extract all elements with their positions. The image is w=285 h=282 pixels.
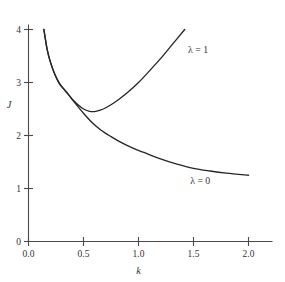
series-label-lambda-1: λ = 1 (188, 44, 208, 55)
y-axis-title: J (7, 99, 13, 110)
series-curve-lambda-0 (44, 30, 249, 176)
y-tick-label-1: 1 (16, 184, 21, 194)
y-tick-labels: 4 3 2 1 0 (16, 25, 21, 247)
y-tick-label-0: 0 (16, 237, 21, 247)
series-curve-lambda-1 (44, 30, 185, 112)
y-tick-label-3: 3 (16, 78, 21, 88)
x-tick-label-0p5: 0.5 (78, 249, 90, 259)
chart-figure: 4 3 2 1 0 0.0 0.5 1.0 1.5 2.0 J k λ = 1 … (0, 0, 285, 282)
x-axis-title: k (136, 265, 141, 276)
data-curves (44, 30, 249, 176)
x-tick-label-1p0: 1.0 (133, 249, 145, 259)
series-label-lambda-0: λ = 0 (190, 175, 210, 186)
y-tick-label-2: 2 (16, 131, 21, 141)
plot-canvas: 4 3 2 1 0 0.0 0.5 1.0 1.5 2.0 J k λ = 1 … (0, 0, 285, 282)
x-tick-label-1p5: 1.5 (188, 249, 200, 259)
x-tick-label-2p0: 2.0 (243, 249, 255, 259)
y-tick-label-4: 4 (16, 25, 21, 35)
x-tick-label-0p0: 0.0 (23, 249, 35, 259)
x-tick-labels: 0.0 0.5 1.0 1.5 2.0 (23, 249, 255, 259)
